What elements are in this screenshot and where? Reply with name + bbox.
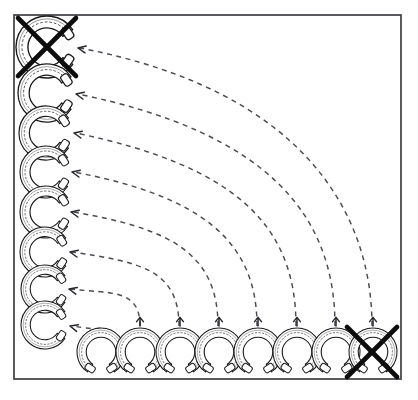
figure-canvas [0,0,418,400]
horseshoe-rotation-figure [0,0,418,400]
